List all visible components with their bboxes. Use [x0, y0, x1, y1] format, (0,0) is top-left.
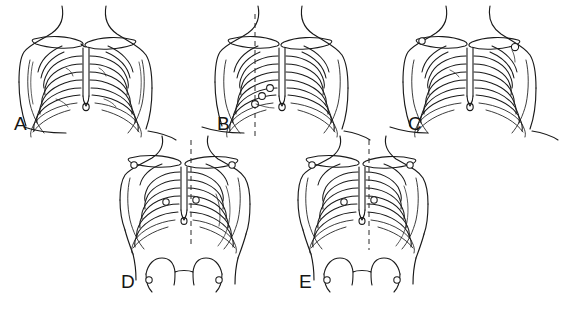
landmark-marker [259, 93, 266, 100]
landmark-marker [163, 199, 169, 205]
landmark-marker [309, 162, 315, 168]
landmark-marker [229, 162, 235, 168]
landmark-marker [341, 199, 347, 205]
landmark-marker [371, 197, 377, 203]
landmark-marker [267, 85, 274, 92]
landmark-marker [146, 277, 152, 283]
landmark-marker [193, 197, 199, 203]
landmark-marker [131, 162, 137, 168]
anatomy-figure-canvas: A [0, 0, 573, 311]
landmark-marker [324, 277, 330, 283]
panel-e-label: E [299, 271, 312, 292]
panel-a-label: A [14, 113, 27, 134]
panel-d-label: D [121, 271, 135, 292]
panel-b-label: B [217, 113, 230, 134]
figure-root: A [0, 0, 573, 311]
panel-c-label: C [408, 113, 422, 134]
landmark-marker [216, 277, 222, 283]
landmark-marker [252, 101, 259, 108]
landmark-marker [511, 43, 518, 50]
landmark-marker [419, 38, 425, 44]
landmark-marker [394, 277, 400, 283]
landmark-marker [407, 162, 413, 168]
